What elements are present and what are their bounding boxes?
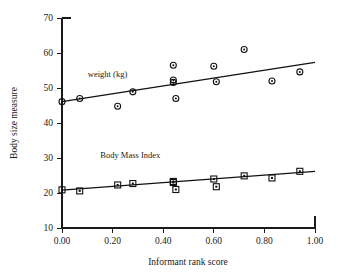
y-tick-label: 70 [44, 13, 54, 23]
plot-canvas: 0.000.200.400.600.801.00 10203040506070 … [0, 0, 338, 277]
data-point-circle-center [215, 81, 217, 83]
y-tick-label: 60 [44, 48, 54, 58]
data-point-circle-center [117, 105, 119, 107]
data-point-square-center [299, 170, 301, 172]
x-tick-label: 0.20 [104, 236, 121, 246]
x-tick-label: 0.40 [155, 236, 172, 246]
y-axis-title: Body size measure [9, 87, 19, 159]
data-point-circle-center [243, 49, 245, 51]
data-point-square-center [132, 183, 134, 185]
y-tick-label: 10 [44, 223, 54, 233]
data-point-circle-center [172, 81, 174, 83]
data-point-square-center [271, 177, 273, 179]
data-point-circle-center [299, 71, 301, 73]
x-tick-label: 0.60 [205, 236, 222, 246]
data-point-square-center [213, 178, 215, 180]
data-point-square-center [215, 186, 217, 188]
data-point-square-center [79, 190, 81, 192]
x-tick-label: 0.80 [256, 236, 273, 246]
data-point-circle-center [79, 98, 81, 100]
x-axis-title: Informant rank score [148, 257, 228, 267]
data-point-square-center [175, 189, 177, 191]
data-point-circle-center [271, 80, 273, 82]
series-annotation-1: weight (kg) [88, 69, 128, 79]
data-point-square-center [243, 175, 245, 177]
y-tick-label: 30 [44, 153, 54, 163]
y-tick-label: 50 [44, 83, 54, 93]
y-tick-label: 20 [44, 188, 54, 198]
scatter-plot-figure: 0.000.200.400.600.801.00 10203040506070 … [0, 0, 338, 277]
data-point-square-center [61, 189, 63, 191]
x-tick-label: 1.00 [307, 236, 324, 246]
x-tick-label: 0.00 [54, 236, 71, 246]
series-annotation-2: Body Mass Index [100, 150, 161, 160]
data-point-circle-center [172, 64, 174, 66]
data-point-circle-center [61, 101, 63, 103]
data-point-circle-center [132, 91, 134, 93]
data-point-square-center [117, 184, 119, 186]
data-point-circle-center [175, 98, 177, 100]
data-point-square-center [172, 182, 174, 184]
y-tick-label: 40 [44, 118, 54, 128]
data-point-circle-center [213, 65, 215, 67]
